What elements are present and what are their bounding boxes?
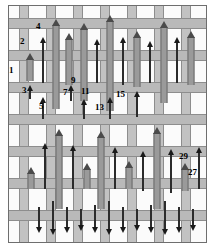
reference-numeral-13: 13	[95, 103, 104, 112]
reference-numeral-7: 7	[63, 88, 68, 97]
grid-horizontal-band	[9, 50, 206, 61]
figure-plate	[8, 5, 207, 243]
grid-horizontal-band	[9, 82, 206, 93]
grid-horizontal-band	[9, 114, 206, 125]
grid-horizontal-band	[9, 210, 206, 221]
reference-numeral-9: 9	[71, 76, 76, 85]
reference-numeral-3: 3	[22, 86, 27, 95]
grid-horizontal-band	[9, 146, 206, 157]
reference-numeral-27: 27	[188, 168, 197, 177]
reference-numeral-1: 1	[9, 66, 14, 75]
reference-numeral-5: 5	[39, 102, 44, 111]
reference-numeral-11: 11	[81, 87, 90, 96]
reference-numeral-4: 4	[36, 22, 41, 31]
reference-numeral-2: 2	[20, 37, 25, 46]
grid-horizontal-band	[9, 178, 206, 189]
reference-numeral-29: 29	[179, 152, 188, 161]
reference-numeral-15: 15	[116, 90, 125, 99]
patent-figure: 12345791113152729	[0, 0, 213, 246]
